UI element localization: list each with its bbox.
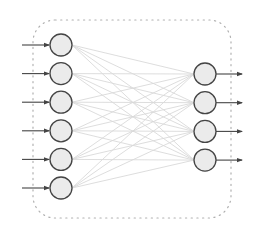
input-node [50, 63, 72, 85]
edge [72, 160, 194, 188]
neural-network-diagram [0, 0, 257, 233]
edge [72, 103, 194, 188]
output-node [194, 63, 216, 85]
input-node [50, 177, 72, 199]
output-node [194, 120, 216, 142]
input-node [50, 120, 72, 142]
output-node [194, 92, 216, 114]
connections [72, 45, 194, 188]
input-node [50, 91, 72, 113]
edge [72, 45, 194, 74]
output-node [194, 149, 216, 171]
input-node [50, 34, 72, 56]
input-node [50, 148, 72, 170]
